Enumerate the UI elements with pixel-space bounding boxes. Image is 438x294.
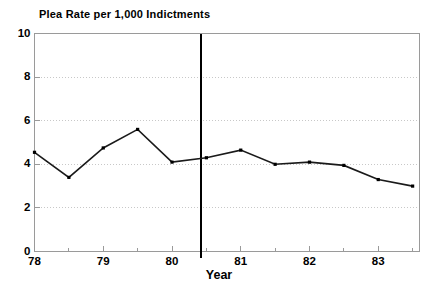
data-series-line: [35, 129, 413, 186]
y-tick-label: 6: [5, 114, 31, 126]
x-tick-label: 82: [295, 255, 325, 267]
x-tick-label: 83: [363, 255, 393, 267]
x-tick-label: 80: [157, 255, 187, 267]
y-axis-ticks: [35, 34, 40, 252]
x-axis-ticks: [35, 246, 413, 252]
y-tick-label: 4: [5, 157, 31, 169]
y-tick-label: 8: [5, 70, 31, 82]
grid-lines: [35, 77, 420, 208]
x-tick-label: 81: [226, 255, 256, 267]
x-tick-label: 78: [20, 255, 50, 267]
x-tick-label: 79: [88, 255, 118, 267]
x-axis-label: Year: [0, 268, 438, 282]
plot-frame: [35, 34, 420, 252]
data-point-markers: [33, 128, 414, 188]
y-tick-label: 2: [5, 201, 31, 213]
chart-figure: Plea Rate per 1,000 Indictments 0246810 …: [0, 0, 438, 294]
y-tick-label: 10: [5, 27, 31, 39]
plot-area: [0, 0, 438, 294]
